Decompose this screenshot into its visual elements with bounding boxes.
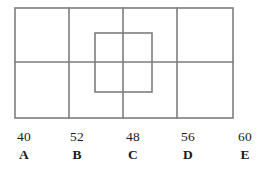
answer-choice-a[interactable]: 40A: [1, 128, 47, 165]
answer-choice-b[interactable]: 52B: [54, 128, 100, 165]
answer-choice-letter: C: [110, 145, 156, 165]
answer-choices-row: 40A52B48C56D60E: [0, 128, 273, 174]
answer-choice-value: 60: [222, 128, 268, 145]
answer-choice-value: 52: [54, 128, 100, 145]
figure-stage: [0, 0, 273, 130]
answer-choice-letter: D: [165, 145, 211, 165]
answer-choice-value: 40: [1, 128, 47, 145]
outer-rectangle: [15, 8, 233, 118]
answer-choice-c[interactable]: 48C: [110, 128, 156, 165]
answer-choice-e[interactable]: 60E: [222, 128, 268, 165]
answer-choice-d[interactable]: 56D: [165, 128, 211, 165]
answer-choice-letter: E: [222, 145, 268, 165]
answer-choice-letter: A: [1, 145, 47, 165]
answer-choice-value: 48: [110, 128, 156, 145]
figure-shapes: [15, 8, 233, 118]
rectangle-grid-figure: [0, 0, 273, 130]
answer-choice-value: 56: [165, 128, 211, 145]
answer-choice-letter: B: [54, 145, 100, 165]
